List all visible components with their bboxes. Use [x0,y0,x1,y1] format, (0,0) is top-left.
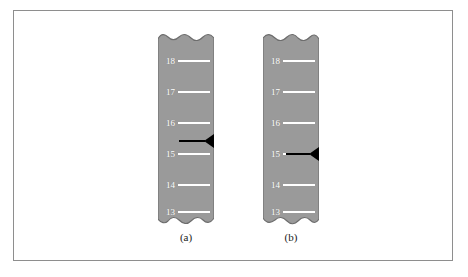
panel-b: 18 17 16 15 [263,31,319,246]
figure-frame: 18 17 16 15 [13,10,453,261]
panel-a: 18 17 16 15 [158,31,214,246]
gel-strip-b: 18 17 16 15 [263,31,319,226]
panel-caption-b: (b) [263,231,319,243]
figure-root: 18 17 16 15 [0,0,468,277]
panel-caption-a: (a) [158,231,214,243]
gel-strip-shape-a [158,31,214,226]
gel-strip-a: 18 17 16 15 [158,31,214,226]
gel-strip-shape-b [263,31,319,226]
